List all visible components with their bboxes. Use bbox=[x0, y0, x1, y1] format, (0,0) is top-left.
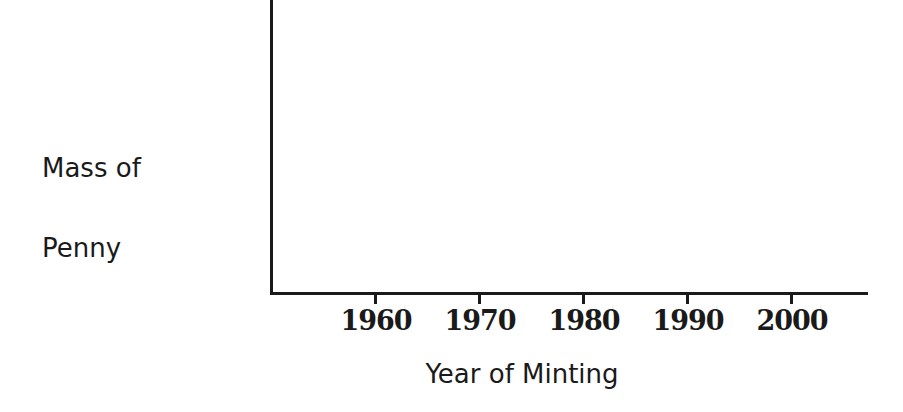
y-axis-title-line-2: Penny bbox=[42, 228, 252, 268]
x-tick-label-1990: 1990 bbox=[636, 307, 740, 334]
x-tick-mark-1970 bbox=[478, 294, 481, 304]
y-axis-title-line-1: Mass of bbox=[42, 148, 252, 188]
x-tick-label-1960: 1960 bbox=[324, 307, 428, 334]
x-tick-mark-1960 bbox=[374, 294, 377, 304]
x-axis-title: Year of Minting bbox=[272, 357, 772, 391]
plot-area bbox=[273, 0, 868, 292]
horizontal-axis-line bbox=[270, 292, 868, 295]
x-tick-label-1980: 1980 bbox=[532, 307, 636, 334]
x-tick-label-1970: 1970 bbox=[428, 307, 532, 334]
x-tick-mark-1980 bbox=[582, 294, 585, 304]
x-tick-mark-2000 bbox=[790, 294, 793, 304]
chart-figure: Mass of Penny 1960 1970 1980 1990 2000 Y… bbox=[0, 0, 903, 412]
y-axis-title: Mass of Penny bbox=[42, 108, 252, 308]
x-tick-label-2000: 2000 bbox=[740, 307, 844, 334]
x-tick-mark-1990 bbox=[686, 294, 689, 304]
